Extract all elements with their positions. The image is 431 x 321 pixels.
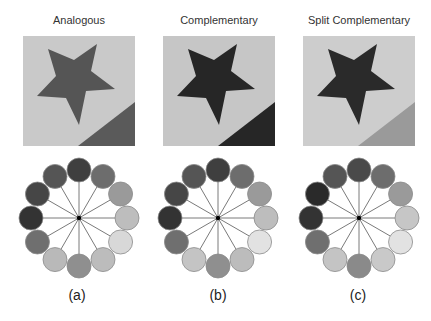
wheel-color-swatch bbox=[371, 164, 395, 188]
wheel-color-swatch bbox=[395, 206, 419, 230]
wheel-color-swatch bbox=[389, 230, 413, 254]
wheel-color-swatch bbox=[323, 248, 347, 272]
wheel-color-swatch bbox=[347, 254, 371, 278]
panel-c-swatch bbox=[303, 36, 415, 146]
wheel-color-swatch bbox=[19, 206, 43, 230]
panel-c-color-wheel bbox=[294, 153, 424, 283]
wheel-color-swatch bbox=[305, 182, 329, 206]
wheel-color-swatch bbox=[25, 182, 49, 206]
wheel-color-swatch bbox=[182, 248, 206, 272]
panel-b-color-wheel bbox=[153, 153, 283, 283]
wheel-color-swatch bbox=[299, 206, 323, 230]
wheel-color-swatch bbox=[109, 230, 133, 254]
wheel-color-swatch bbox=[25, 230, 49, 254]
wheel-color-swatch bbox=[91, 248, 115, 272]
wheel-color-swatch bbox=[158, 206, 182, 230]
panel-a-label: (a) bbox=[62, 287, 92, 303]
panel-a-swatch bbox=[23, 36, 135, 146]
panel-a-color-wheel bbox=[14, 153, 144, 283]
wheel-color-swatch bbox=[206, 158, 230, 182]
wheel-color-swatch bbox=[91, 164, 115, 188]
wheel-color-swatch bbox=[305, 230, 329, 254]
panel-b-title: Complementary bbox=[149, 14, 289, 26]
panel-c-label: (c) bbox=[343, 287, 373, 303]
wheel-color-swatch bbox=[248, 182, 272, 206]
panel-c-title: Split Complementary bbox=[289, 14, 429, 26]
wheel-color-swatch bbox=[67, 158, 91, 182]
wheel-hub bbox=[77, 216, 81, 220]
wheel-color-swatch bbox=[206, 254, 230, 278]
wheel-color-swatch bbox=[323, 164, 347, 188]
wheel-hub bbox=[216, 216, 220, 220]
wheel-color-swatch bbox=[248, 230, 272, 254]
wheel-color-swatch bbox=[230, 164, 254, 188]
wheel-color-swatch bbox=[67, 254, 91, 278]
wheel-color-swatch bbox=[43, 248, 67, 272]
wheel-color-swatch bbox=[109, 182, 133, 206]
wheel-color-swatch bbox=[164, 182, 188, 206]
wheel-color-swatch bbox=[371, 248, 395, 272]
wheel-color-swatch bbox=[254, 206, 278, 230]
wheel-color-swatch bbox=[182, 164, 206, 188]
panel-b-swatch bbox=[163, 36, 275, 146]
wheel-color-swatch bbox=[389, 182, 413, 206]
wheel-color-swatch bbox=[115, 206, 139, 230]
wheel-color-swatch bbox=[347, 158, 371, 182]
wheel-color-swatch bbox=[43, 164, 67, 188]
wheel-color-swatch bbox=[230, 248, 254, 272]
wheel-hub bbox=[357, 216, 361, 220]
panel-a-title: Analogous bbox=[9, 14, 149, 26]
panel-b-label: (b) bbox=[203, 287, 233, 303]
wheel-color-swatch bbox=[164, 230, 188, 254]
